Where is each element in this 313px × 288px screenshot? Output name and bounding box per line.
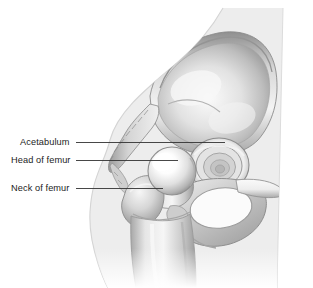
label-acetabulum: Acetabulum xyxy=(20,138,70,147)
label-neck-of-femur: Neck of femur xyxy=(11,184,69,193)
ilium xyxy=(150,32,277,156)
label-head-of-femur: Head of femur xyxy=(11,156,71,165)
hip-anatomy-figure: Acetabulum Head of femur Neck of femur xyxy=(0,0,313,288)
